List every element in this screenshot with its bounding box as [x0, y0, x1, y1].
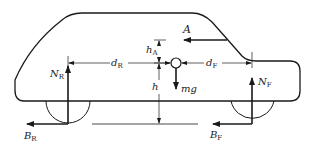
aero-height-label: hA [146, 44, 158, 57]
weight-label: mg [181, 83, 197, 94]
rear-normal-label: NR [49, 68, 65, 81]
rear-braking-label: BR [23, 130, 37, 143]
aero-force-label: A [182, 23, 191, 36]
rear-distance-label: dR [111, 57, 123, 70]
front-braking-label: BF [209, 129, 222, 142]
front-distance-label: dF [206, 57, 217, 70]
cg-height-label: h [152, 81, 158, 92]
car-free-body-diagram: A hA h dR dF mg NR NF BR BF [0, 0, 310, 148]
front-normal-label: NF [257, 76, 272, 89]
center-of-gravity-marker [171, 58, 181, 68]
